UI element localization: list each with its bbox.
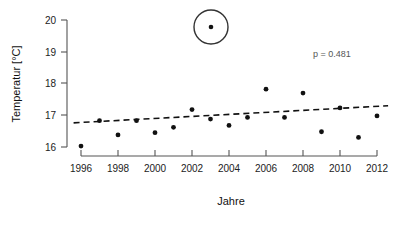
data-point	[227, 123, 232, 128]
data-point	[79, 144, 84, 149]
x-tick-label-1996: 1996	[70, 163, 93, 174]
x-tick-label-2012: 2012	[366, 163, 389, 174]
y-tick-label-19: 19	[45, 47, 57, 58]
data-point	[153, 130, 158, 135]
y-tick-label-20: 20	[45, 15, 57, 26]
data-point	[171, 125, 176, 130]
p-value-annotation: p = 0.481	[313, 49, 351, 59]
x-tick-label-2008: 2008	[292, 163, 315, 174]
plot-background	[0, 0, 406, 225]
data-point	[338, 106, 343, 111]
data-point	[375, 113, 380, 118]
data-point	[356, 135, 361, 140]
y-tick-label-17: 17	[45, 110, 57, 121]
data-point	[208, 117, 213, 122]
data-point	[301, 91, 306, 96]
data-point	[264, 87, 269, 92]
data-point	[282, 115, 287, 120]
chart-screenshot: 20 19 18 17 16 1996 1998 2000 2002 2004 …	[0, 0, 406, 225]
x-tick-label-2000: 2000	[144, 163, 167, 174]
data-point	[97, 118, 102, 123]
annotation-center-dot	[209, 25, 214, 30]
x-tick-label-1998: 1998	[107, 163, 130, 174]
scatter-plot: 20 19 18 17 16 1996 1998 2000 2002 2004 …	[0, 0, 406, 225]
x-axis-title: Jahre	[217, 195, 245, 207]
y-tick-label-16: 16	[45, 142, 57, 153]
data-point	[134, 118, 139, 123]
x-tick-label-2002: 2002	[181, 163, 204, 174]
y-axis-title: Temperatur [°C]	[10, 45, 22, 122]
data-point	[245, 115, 250, 120]
x-tick-label-2010: 2010	[329, 163, 352, 174]
x-tick-label-2004: 2004	[218, 163, 241, 174]
x-tick-label-2006: 2006	[255, 163, 278, 174]
y-tick-label-18: 18	[45, 78, 57, 89]
data-point	[116, 133, 121, 138]
data-point	[319, 129, 324, 134]
data-point	[190, 107, 195, 112]
